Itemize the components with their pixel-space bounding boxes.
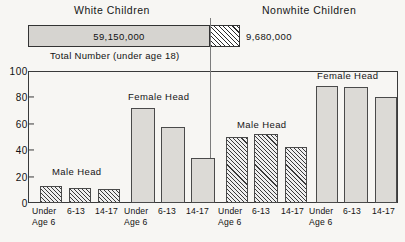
bars-layer — [28, 71, 398, 203]
y-tick-label-40: 40 — [6, 145, 28, 156]
total-white-value-label: 59,150,000 — [28, 25, 210, 47]
xcat-nonwhite-female-6to13: 6-13 — [343, 206, 361, 217]
xcat-nonwhite-male-6to13: 6-13 — [252, 206, 270, 217]
bar-white-male-under6 — [40, 186, 62, 203]
xcat-line2: Age 6 — [309, 217, 333, 228]
total-number-caption: Total Number (under age 18) — [50, 50, 180, 61]
total-nonwhite-value-label: 9,680,000 — [246, 25, 292, 47]
xcat-white-male-under6: Under Age 6 — [32, 206, 56, 227]
xcat-white-female-under6: Under Age 6 — [124, 206, 148, 227]
series-label-nonwhite-male: Male Head — [237, 119, 287, 130]
series-label-white-male: Male Head — [52, 166, 102, 177]
y-tick-label-20: 20 — [6, 171, 28, 182]
bar-white-male-6to13 — [69, 188, 91, 203]
group-title-white: White Children — [74, 4, 150, 16]
xcat-line1: Under — [124, 206, 148, 217]
y-tick-label-100: 100 — [6, 66, 28, 77]
chart-figure: White Children Nonwhite Children 59,150,… — [0, 0, 405, 242]
xcat-line2: Age 6 — [32, 217, 56, 228]
bar-nonwhite-male-under6 — [226, 137, 248, 203]
y-tick-label-60: 60 — [6, 118, 28, 129]
xcat-white-male-14to17: 14-17 — [95, 206, 118, 217]
xcat-line1: Under — [32, 206, 56, 217]
xcat-white-female-14to17: 14-17 — [186, 206, 209, 217]
xcat-white-male-6to13: 6-13 — [67, 206, 85, 217]
bar-nonwhite-female-14to17 — [375, 97, 397, 203]
bar-white-female-under6 — [131, 108, 155, 203]
xcat-line1: Under — [218, 206, 242, 217]
group-title-nonwhite: Nonwhite Children — [262, 4, 356, 16]
bar-nonwhite-male-6to13 — [254, 134, 278, 203]
xcat-nonwhite-male-under6: Under Age 6 — [218, 206, 242, 227]
bar-nonwhite-female-under6 — [316, 86, 338, 204]
xcat-line1: Under — [309, 206, 333, 217]
bar-white-male-14to17 — [98, 189, 120, 204]
xcat-line2: Age 6 — [218, 217, 242, 228]
y-axis: 0 20 40 60 80 100 — [0, 0, 28, 242]
total-bar-segment-nonwhite — [210, 25, 240, 47]
xcat-line2: Age 6 — [124, 217, 148, 228]
y-tick-label-80: 80 — [6, 92, 28, 103]
bar-white-female-6to13 — [161, 127, 185, 203]
xcat-white-female-6to13: 6-13 — [158, 206, 176, 217]
series-label-nonwhite-female: Female Head — [317, 70, 378, 81]
xcat-nonwhite-male-14to17: 14-17 — [281, 206, 304, 217]
xcat-nonwhite-female-under6: Under Age 6 — [309, 206, 333, 227]
series-label-white-female: Female Head — [128, 91, 189, 102]
bar-white-female-14to17 — [191, 158, 215, 203]
y-tick-label-0: 0 — [6, 198, 28, 209]
xcat-nonwhite-female-14to17: 14-17 — [372, 206, 395, 217]
bar-nonwhite-female-6to13 — [344, 87, 368, 203]
bar-nonwhite-male-14to17 — [285, 147, 307, 203]
